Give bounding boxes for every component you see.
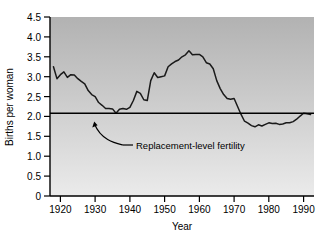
x-tick-label-1960: 1960 [188, 204, 211, 215]
y-axis-ticks [44, 17, 50, 196]
replacement-level-annotation-label: Replacement-level fertility [136, 140, 245, 151]
x-tick-label-1970: 1970 [223, 204, 246, 215]
y-tick-label-4-5: 4.5 [27, 12, 41, 23]
x-tick-label-1980: 1980 [258, 204, 281, 215]
x-tick-label-1990: 1990 [292, 204, 315, 215]
x-tick-label-1950: 1950 [153, 204, 176, 215]
y-tick-label-1-5: 1.5 [27, 131, 41, 142]
x-axis-title: Year [172, 221, 193, 232]
y-tick-label-3-5: 3.5 [27, 52, 41, 63]
x-tick-label-1920: 1920 [49, 204, 72, 215]
fertility-rate-chart-figure: 4.5 4.0 3.5 3.0 2.5 2.0 1.5 1.0 0.5 0 19… [0, 0, 332, 238]
y-tick-label-2-0: 2.0 [27, 111, 41, 122]
y-tick-label-0-5: 0.5 [27, 171, 41, 182]
y-tick-label-1-0: 1.0 [27, 151, 41, 162]
chart-canvas: 4.5 4.0 3.5 3.0 2.5 2.0 1.5 1.0 0.5 0 19… [0, 0, 332, 238]
y-tick-label-0: 0 [35, 191, 41, 202]
y-axis-title: Births per woman [4, 68, 15, 146]
x-tick-label-1940: 1940 [119, 204, 142, 215]
y-tick-label-4-0: 4.0 [27, 32, 41, 43]
x-tick-label-1930: 1930 [84, 204, 107, 215]
plot-area-background [50, 17, 314, 196]
y-tick-label-3-0: 3.0 [27, 72, 41, 83]
x-axis-ticks [60, 196, 303, 202]
y-tick-label-2-5: 2.5 [27, 92, 41, 103]
